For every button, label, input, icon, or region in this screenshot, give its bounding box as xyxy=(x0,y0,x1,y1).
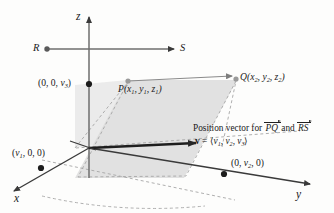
point-s-label: S xyxy=(180,43,185,54)
angle-close: ⟩ xyxy=(244,136,248,146)
z-intercept-label: (0, 0, v3) xyxy=(38,78,71,89)
axes-and-vectors-layer xyxy=(0,0,334,213)
y-intercept-label: (0, v2, 0) xyxy=(231,158,264,169)
point-p-label: P(x1, y1, z1) xyxy=(118,84,162,95)
x-axis-label: x xyxy=(14,193,19,205)
point-q-name: Q xyxy=(240,71,247,82)
annotation-join: and xyxy=(279,123,297,133)
vector-pq-symbol: PQ xyxy=(265,124,279,133)
y-axis-label: y xyxy=(296,189,301,201)
z-intercept-suffix: ) xyxy=(68,77,71,88)
y-intercept-prefix: (0, xyxy=(231,157,244,168)
position-vector-v xyxy=(89,143,196,148)
origin-tick xyxy=(70,141,96,150)
point-q-label: Q(x2, y2, z2) xyxy=(240,72,285,83)
position-vector-figure: z x y R S P(x1, y1, z1) Q(x2, y2, z2) (0… xyxy=(0,0,334,213)
y-axis xyxy=(89,148,310,184)
annotation-prefix: Position vector for xyxy=(193,123,265,133)
annotation-line-1: Position vector for PQ and RS xyxy=(193,124,309,133)
equals-sign: = xyxy=(200,136,210,146)
x-intercept-label: (v1, 0, 0) xyxy=(12,148,45,159)
annotation-line-2: v = ⟨v1, v2, v3⟩ xyxy=(195,137,248,147)
y-intercept-suffix: , 0) xyxy=(251,157,264,168)
point-r-label: R xyxy=(33,43,39,54)
dot-y-intercept xyxy=(221,171,227,177)
dot-z-intercept xyxy=(86,81,92,87)
dot-x-intercept xyxy=(38,165,44,171)
vector-rs-symbol: RS xyxy=(297,124,309,133)
vector-pq xyxy=(128,76,232,81)
x-intercept-suffix: , 0, 0) xyxy=(23,147,45,158)
z-intercept-prefix: (0, 0, xyxy=(38,77,60,88)
dot-r xyxy=(44,46,49,51)
dot-q xyxy=(233,76,238,81)
z-axis-label: z xyxy=(76,11,80,23)
